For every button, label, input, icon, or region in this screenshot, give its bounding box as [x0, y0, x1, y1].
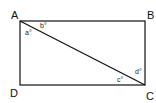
diagonal-ac	[20, 21, 145, 85]
angle-label-b: b°	[40, 22, 47, 29]
angle-label-a: a°	[25, 29, 32, 36]
angle-label-d: d°	[135, 68, 142, 75]
vertex-label-a: A	[11, 9, 19, 21]
rectangle-diagram: A B C D a° b° c° d°	[0, 0, 156, 103]
angle-label-c: c°	[117, 76, 124, 83]
vertex-label-b: B	[147, 9, 154, 21]
vertex-label-c: C	[146, 90, 154, 102]
vertex-label-d: D	[10, 87, 18, 99]
